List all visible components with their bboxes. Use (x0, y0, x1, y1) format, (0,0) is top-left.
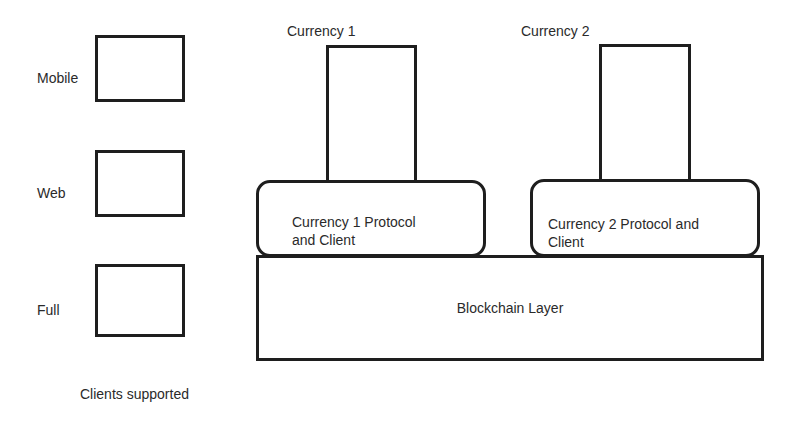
client-label-full: Full (37, 303, 60, 317)
client-box-web (95, 150, 185, 217)
currency-1-protocol-line1: Currency 1 Protocol (292, 213, 416, 231)
currency-2-title: Currency 2 (521, 24, 589, 38)
currency-1-protocol-line2: and Client (292, 231, 416, 249)
currency-1-title: Currency 1 (287, 24, 355, 38)
currency-1-box (326, 45, 417, 183)
clients-caption: Clients supported (80, 387, 189, 401)
client-label-mobile: Mobile (37, 71, 78, 85)
blockchain-layer-label: Blockchain Layer (457, 300, 564, 316)
client-label-web: Web (37, 186, 66, 200)
currency-2-protocol-line1: Currency 2 Protocol and (548, 215, 699, 233)
currency-2-box (599, 44, 691, 183)
currency-1-protocol-box: Currency 1 Protocol and Client (256, 180, 486, 257)
blockchain-layer-box: Blockchain Layer (256, 255, 764, 361)
client-box-full (95, 264, 185, 337)
currency-2-protocol-line2: Client (548, 233, 699, 251)
client-box-mobile (95, 35, 185, 102)
currency-2-protocol-box: Currency 2 Protocol and Client (530, 179, 760, 257)
